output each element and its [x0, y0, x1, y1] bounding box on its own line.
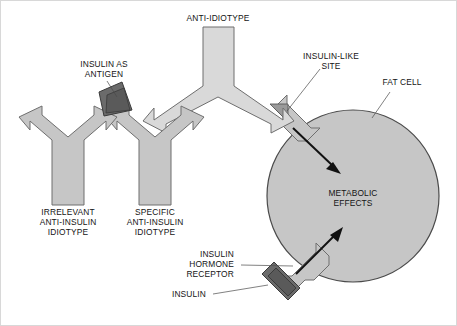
fat-cell-label-line-0: FAT CELL: [382, 77, 421, 87]
anti-idiotype-antibody-shape: [143, 27, 294, 133]
irrelevant-antibody-shape: [19, 106, 117, 205]
leader-insulin-like-site: [287, 69, 320, 111]
irrelevant-label-line-2: IDIOTYPE: [48, 227, 89, 237]
specific-anti-insulin-idiotype-label: SPECIFIC ANTI-INSULIN IDIOTYPE: [127, 207, 184, 237]
fat-cell-label: FAT CELL: [382, 77, 421, 87]
anti-idiotype-label: ANTI-IDIOTYPE: [187, 13, 250, 23]
diagram-canvas: ANTI-IDIOTYPE INSULIN AS ANTIGEN INSULIN…: [0, 0, 457, 326]
irrelevant-label-line-1: ANTI-INSULIN: [40, 217, 97, 227]
immunology-diagram: ANTI-IDIOTYPE INSULIN AS ANTIGEN INSULIN…: [0, 0, 457, 326]
insulin-as-antigen-label-line-0: INSULIN AS: [80, 59, 128, 69]
insulin-as-antigen-label: INSULIN AS ANTIGEN: [80, 59, 128, 79]
specific-label-line-2: IDIOTYPE: [135, 227, 176, 237]
insulin-like-site-label-line-0: INSULIN-LIKE: [303, 51, 359, 61]
specific-label-line-0: SPECIFIC: [135, 207, 175, 217]
irrelevant-anti-insulin-idiotype-label: IRRELEVANT ANTI-INSULIN IDIOTYPE: [40, 207, 97, 237]
leader-insulin-hormone-receptor: [241, 265, 293, 266]
insulin-hormone-receptor-line-2: RECEPTOR: [186, 269, 234, 279]
insulin-like-site-label-line-1: SITE: [321, 61, 340, 71]
insulin-hormone-receptor-label: INSULIN HORMONE RECEPTOR: [186, 249, 234, 279]
metabolic-effects-label: METABOLIC EFFECTS: [328, 188, 377, 208]
metabolic-effects-line-1: EFFECTS: [333, 198, 372, 208]
anti-idiotype-label-line-0: ANTI-IDIOTYPE: [187, 13, 250, 23]
insulin-label: INSULIN: [172, 289, 206, 299]
metabolic-effects-line-0: METABOLIC: [328, 188, 377, 198]
specific-label-line-1: ANTI-INSULIN: [127, 217, 184, 227]
insulin-as-antigen-label-line-1: ANTIGEN: [85, 69, 123, 79]
insulin-hormone-receptor-line-1: HORMONE: [189, 259, 234, 269]
insulin-like-site-label: INSULIN-LIKE SITE: [303, 51, 359, 71]
insulin-label-line-0: INSULIN: [172, 289, 206, 299]
irrelevant-label-line-0: IRRELEVANT: [41, 207, 94, 217]
leader-insulin: [213, 285, 268, 294]
insulin-hormone-receptor-line-0: INSULIN: [200, 249, 234, 259]
